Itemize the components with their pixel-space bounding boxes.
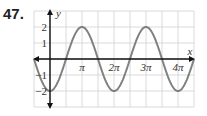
svg-text:1: 1 bbox=[42, 37, 48, 49]
sine-wave-chart: yxπ2π3π4π21−1−2 bbox=[0, 0, 207, 116]
svg-text:−1: −1 bbox=[35, 69, 47, 81]
svg-text:−2: −2 bbox=[35, 85, 47, 97]
svg-text:4π: 4π bbox=[172, 61, 184, 73]
svg-text:y: y bbox=[55, 7, 61, 19]
svg-text:x: x bbox=[187, 45, 193, 57]
svg-text:3π: 3π bbox=[139, 61, 152, 73]
svg-text:2π: 2π bbox=[108, 61, 120, 73]
svg-text:π: π bbox=[79, 61, 85, 73]
svg-text:2: 2 bbox=[42, 21, 48, 33]
